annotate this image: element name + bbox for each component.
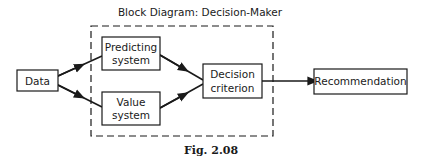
node-data-label: Data [25, 75, 50, 87]
node-value-line2: system [112, 109, 150, 121]
node-predicting-system: Predicting system [102, 37, 160, 70]
node-value-system: Value system [102, 92, 160, 125]
figure-caption: Fig. 2.08 [184, 144, 238, 157]
arrowhead-predicting-decision [160, 55, 184, 69]
node-value-line1: Value [117, 96, 146, 108]
edges [58, 55, 313, 108]
arrowhead-data-predicting [58, 66, 80, 76]
arrowhead-data-value [58, 85, 80, 96]
node-recommendation: Recommendation [314, 69, 407, 94]
node-decision-line2: criterion [211, 82, 255, 94]
node-recommendation-label: Recommendation [314, 75, 406, 87]
block-diagram: Block Diagram: Decision-Maker Data Predi… [0, 0, 423, 160]
node-decision-criterion: Decision criterion [203, 64, 262, 98]
arrowhead-value-decision [160, 95, 184, 108]
node-decision-line1: Decision [210, 68, 255, 80]
node-predicting-line2: system [112, 54, 150, 66]
diagram-title: Block Diagram: Decision-Maker [118, 6, 283, 18]
node-data: Data [17, 70, 58, 91]
node-predicting-line1: Predicting [105, 41, 157, 53]
